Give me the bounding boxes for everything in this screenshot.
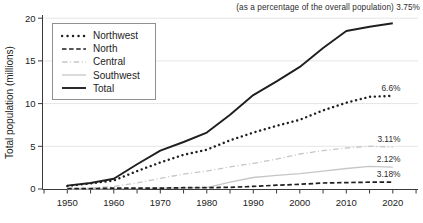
svg-text:5: 5 [30,141,35,152]
north-dashed-line-icon [61,45,87,53]
svg-text:2010: 2010 [336,197,357,208]
legend-label-northwest: Northwest [93,30,138,41]
southwest-solid-light-line-icon [61,71,87,79]
percentage-note-annotation: (as a percentage of the overall populati… [236,3,420,12]
series-percent-labels: 6.6%3.18%3.11%2.12% [377,83,401,179]
svg-text:1990: 1990 [243,197,264,208]
x-axis-ticks: 19501960197019801990200020102020 [44,190,416,209]
total-solid-line-icon [61,84,87,92]
svg-text:6.6%: 6.6% [381,83,401,93]
svg-text:0: 0 [30,183,35,194]
legend-item-total: Total [61,82,155,95]
legend-item-central: Central [61,55,155,68]
legend-label-southwest: Southwest [93,70,140,81]
svg-text:1980: 1980 [196,197,217,208]
population-line-chart-figure: 0510152019501960197019801990200020102020… [0,0,423,223]
svg-text:2.12%: 2.12% [377,154,401,164]
svg-text:3.18%: 3.18% [377,169,401,179]
series-northwest [67,96,393,186]
legend-item-north: North [61,42,155,55]
y-axis-title: Total population (millions) [4,46,15,159]
legend: Northwest North Central Southwest Total [52,23,156,100]
legend-label-north: North [93,43,117,54]
svg-text:20: 20 [25,13,36,24]
svg-text:1970: 1970 [150,197,171,208]
legend-item-southwest: Southwest [61,69,155,82]
legend-label-central: Central [93,56,125,67]
legend-item-northwest: Northwest [61,29,155,42]
svg-text:3.11%: 3.11% [377,134,401,144]
svg-text:2000: 2000 [289,197,310,208]
y-axis-ticks: 05101520 [25,13,43,195]
northwest-dotted-line-icon [61,32,87,40]
svg-text:10: 10 [25,98,36,109]
svg-text:1960: 1960 [103,197,124,208]
svg-text:2020: 2020 [382,197,403,208]
legend-label-total: Total [93,83,114,94]
svg-text:15: 15 [25,55,36,66]
series-north [67,182,393,188]
svg-text:1950: 1950 [57,197,78,208]
central-dashdot-line-icon [61,58,87,66]
